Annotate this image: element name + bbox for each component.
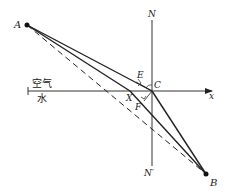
label-A: A: [13, 19, 21, 30]
label-air: 空气: [32, 77, 52, 89]
ray-C-B: [152, 91, 206, 174]
ray-X-B: [130, 91, 206, 174]
right-angle-F: [141, 96, 146, 99]
label-X: X: [125, 93, 133, 103]
label-x-axis: x: [209, 91, 214, 101]
point-A: [25, 23, 30, 28]
label-B: B: [209, 177, 217, 188]
label-water: 水: [37, 93, 47, 104]
interface-line: [28, 87, 212, 95]
label-F: F: [134, 102, 142, 112]
label-C: C: [154, 80, 161, 90]
perp-C-E: [136, 82, 152, 91]
point-B: [204, 172, 209, 177]
perp-C-F: [144, 91, 152, 101]
label-E: E: [136, 70, 144, 80]
label-N: N: [147, 9, 157, 19]
refraction-diagram: A B N N′ x E C X F 空气 水: [0, 0, 236, 194]
rays: [27, 25, 206, 174]
ray-A-B-dashed: [27, 25, 206, 174]
label-N-prime: N′: [143, 168, 154, 178]
